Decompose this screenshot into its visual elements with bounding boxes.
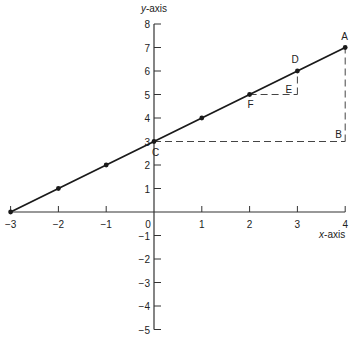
data-point [343,45,348,50]
data-point [199,116,204,121]
y-tick-label: 1 [144,184,150,195]
axes: −3−2−101234−5−4−3−2−112345678y-axisx-axi… [5,3,349,336]
data-point [8,210,13,215]
y-tick-label: 7 [144,43,150,54]
y-tick-label: −1 [139,231,151,242]
point-label-f: F [248,99,254,110]
x-tick-label: −3 [5,219,17,230]
y-tick-label: −3 [139,278,151,289]
line-chart: −3−2−101234−5−4−3−2−112345678y-axisx-axi… [0,0,357,344]
series-line [11,48,346,213]
x-tick-label: −2 [53,219,65,230]
data-point [104,163,109,168]
y-axis-label: y-axis [140,3,167,14]
point-label-b: B [335,129,342,140]
y-tick-label: −4 [139,301,151,312]
point-label-d: D [291,54,298,65]
y-tick-label: 8 [144,19,150,30]
data-point [56,186,61,191]
x-tick-label: 0 [145,219,151,230]
x-tick-label: 2 [247,219,253,230]
data-point [247,92,252,97]
x-axis-label: x-axis [318,229,345,240]
point-label-e: E [285,84,292,95]
data-series [8,45,347,214]
data-point [152,139,157,144]
y-tick-label: 6 [144,66,150,77]
y-tick-label: 2 [144,160,150,171]
y-tick-label: −2 [139,254,151,265]
data-point [295,69,300,74]
point-label-c: C [152,147,159,158]
point-label-a: A [341,31,348,42]
x-tick-label: 1 [199,219,205,230]
y-tick-label: 4 [144,113,150,124]
y-tick-label: 5 [144,90,150,101]
y-tick-label: −5 [139,325,151,336]
x-tick-label: 3 [295,219,301,230]
x-tick-label: −1 [100,219,112,230]
